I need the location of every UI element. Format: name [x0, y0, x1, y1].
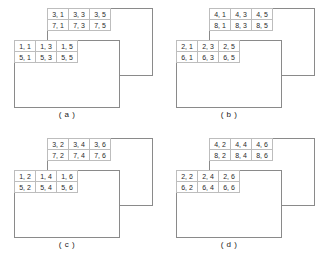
panel-d: 4, 2 4, 4 4, 6 8, 2 8, 4 8, 6 2, 2 2, 4 … — [162, 130, 323, 260]
grid-cell: 5, 2 — [15, 182, 36, 193]
grid-cell: 5, 6 — [57, 182, 78, 193]
grid-cell: 3, 6 — [90, 139, 111, 150]
grid-cell: 2, 3 — [198, 41, 219, 52]
panel-label: ( b ) — [162, 110, 296, 119]
front-plane-grid: 1, 1 1, 3 1, 5 5, 1 5, 3 5, 5 — [14, 40, 78, 63]
panel-label: ( c ) — [0, 240, 134, 249]
grid-cell: 4, 3 — [231, 9, 252, 20]
grid-cell: 7, 1 — [48, 20, 69, 31]
grid-cell: 2, 2 — [177, 171, 198, 182]
grid-cell: 5, 5 — [57, 52, 78, 63]
table-row: 7, 1 7, 3 7, 5 — [48, 20, 111, 31]
grid-cell: 7, 2 — [48, 150, 69, 161]
grid-cell: 7, 5 — [90, 20, 111, 31]
grid-cell: 6, 5 — [219, 52, 240, 63]
grid-cell: 6, 4 — [198, 182, 219, 193]
grid-cell: 6, 3 — [198, 52, 219, 63]
grid-cell: 1, 5 — [57, 41, 78, 52]
back-plane-grid: 3, 2 3, 4 3, 6 7, 2 7, 4 7, 6 — [47, 138, 111, 161]
grid-cell: 8, 6 — [252, 150, 273, 161]
grid-cell: 8, 4 — [231, 150, 252, 161]
back-plane-grid: 4, 2 4, 4 4, 6 8, 2 8, 4 8, 6 — [209, 138, 273, 161]
grid-cell: 8, 1 — [210, 20, 231, 31]
front-plane-grid: 1, 2 1, 4 1, 6 5, 2 5, 4 5, 6 — [14, 170, 78, 193]
table-row: 2, 1 2, 3 2, 5 — [177, 41, 240, 52]
grid-cell: 2, 4 — [198, 171, 219, 182]
grid-cell: 3, 1 — [48, 9, 69, 20]
panel-b: 4, 1 4, 3 4, 5 8, 1 8, 3 8, 5 2, 1 2, 3 … — [162, 0, 323, 130]
grid-cell: 6, 1 — [177, 52, 198, 63]
grid-cell: 8, 5 — [252, 20, 273, 31]
table-row: 4, 1 4, 3 4, 5 — [210, 9, 273, 20]
table-row: 1, 1 1, 3 1, 5 — [15, 41, 78, 52]
table-row: 3, 1 3, 3 3, 5 — [48, 9, 111, 20]
grid-cell: 7, 3 — [69, 20, 90, 31]
grid-cell: 6, 6 — [219, 182, 240, 193]
panel-label: ( a ) — [0, 110, 134, 119]
grid-cell: 2, 5 — [219, 41, 240, 52]
table-row: 7, 2 7, 4 7, 6 — [48, 150, 111, 161]
grid-cell: 1, 6 — [57, 171, 78, 182]
back-plane-grid: 3, 1 3, 3 3, 5 7, 1 7, 3 7, 5 — [47, 8, 111, 31]
grid-cell: 1, 1 — [15, 41, 36, 52]
table-row: 1, 2 1, 4 1, 6 — [15, 171, 78, 182]
grid-cell: 4, 2 — [210, 139, 231, 150]
grid-cell: 5, 1 — [15, 52, 36, 63]
grid-cell: 4, 5 — [252, 9, 273, 20]
front-plane-grid: 2, 1 2, 3 2, 5 6, 1 6, 3 6, 5 — [176, 40, 240, 63]
table-row: 8, 2 8, 4 8, 6 — [210, 150, 273, 161]
table-row: 6, 2 6, 4 6, 6 — [177, 182, 240, 193]
grid-cell: 5, 4 — [36, 182, 57, 193]
panel-a: 3, 1 3, 3 3, 5 7, 1 7, 3 7, 5 1, 1 1, 3 … — [0, 0, 161, 130]
grid-cell: 3, 5 — [90, 9, 111, 20]
grid-cell: 4, 4 — [231, 139, 252, 150]
grid-cell: 1, 3 — [36, 41, 57, 52]
table-row: 8, 1 8, 3 8, 5 — [210, 20, 273, 31]
grid-cell: 4, 6 — [252, 139, 273, 150]
grid-cell: 6, 2 — [177, 182, 198, 193]
grid-cell: 4, 1 — [210, 9, 231, 20]
grid-cell: 7, 6 — [90, 150, 111, 161]
grid-cell: 3, 3 — [69, 9, 90, 20]
back-plane-grid: 4, 1 4, 3 4, 5 8, 1 8, 3 8, 5 — [209, 8, 273, 31]
table-row: 2, 2 2, 4 2, 6 — [177, 171, 240, 182]
table-row: 4, 2 4, 4 4, 6 — [210, 139, 273, 150]
table-row: 5, 2 5, 4 5, 6 — [15, 182, 78, 193]
front-plane-grid: 2, 2 2, 4 2, 6 6, 2 6, 4 6, 6 — [176, 170, 240, 193]
grid-cell: 7, 4 — [69, 150, 90, 161]
grid-cell: 3, 2 — [48, 139, 69, 150]
figure-container: 3, 1 3, 3 3, 5 7, 1 7, 3 7, 5 1, 1 1, 3 … — [0, 0, 323, 261]
panel-label: ( d ) — [162, 240, 296, 249]
grid-cell: 2, 1 — [177, 41, 198, 52]
grid-cell: 2, 6 — [219, 171, 240, 182]
table-row: 3, 2 3, 4 3, 6 — [48, 139, 111, 150]
grid-cell: 8, 2 — [210, 150, 231, 161]
grid-cell: 3, 4 — [69, 139, 90, 150]
grid-cell: 8, 3 — [231, 20, 252, 31]
grid-cell: 1, 4 — [36, 171, 57, 182]
grid-cell: 1, 2 — [15, 171, 36, 182]
grid-cell: 5, 3 — [36, 52, 57, 63]
table-row: 6, 1 6, 3 6, 5 — [177, 52, 240, 63]
table-row: 5, 1 5, 3 5, 5 — [15, 52, 78, 63]
panel-c: 3, 2 3, 4 3, 6 7, 2 7, 4 7, 6 1, 2 1, 4 … — [0, 130, 161, 260]
